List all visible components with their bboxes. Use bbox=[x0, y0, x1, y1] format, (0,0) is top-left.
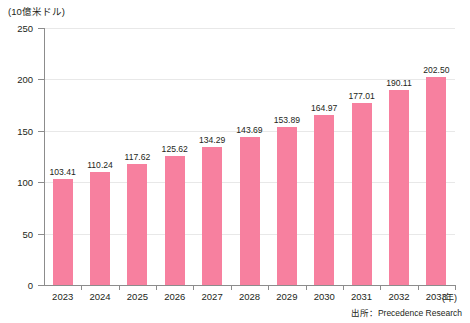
y-axis-tick bbox=[38, 285, 44, 286]
x-axis-tick bbox=[268, 285, 269, 290]
x-axis-tick bbox=[81, 285, 82, 290]
x-axis-tick-label: 2027 bbox=[192, 291, 232, 302]
x-axis-unit-label: (年) bbox=[442, 291, 457, 304]
bar bbox=[352, 103, 372, 285]
bar bbox=[389, 90, 409, 285]
x-axis-tick bbox=[156, 285, 157, 290]
bar bbox=[127, 164, 147, 285]
bar-value-label: 134.29 bbox=[191, 135, 233, 145]
x-axis-tick bbox=[306, 285, 307, 290]
x-axis-line bbox=[44, 285, 456, 286]
gridline bbox=[44, 28, 455, 29]
y-axis-line bbox=[44, 28, 45, 286]
x-axis-tick-label: 2023 bbox=[43, 291, 83, 302]
bar-value-label: 125.62 bbox=[154, 144, 196, 154]
bar bbox=[202, 147, 222, 285]
bar bbox=[53, 179, 73, 285]
x-axis-tick-label: 2024 bbox=[80, 291, 120, 302]
y-axis-tick-label: 250 bbox=[0, 23, 33, 34]
x-axis-tick bbox=[343, 285, 344, 290]
bar-value-label: 103.41 bbox=[42, 167, 84, 177]
bar-value-label: 202.50 bbox=[415, 65, 457, 75]
x-axis-tick bbox=[418, 285, 419, 290]
y-axis-tick-label: 0 bbox=[0, 280, 33, 291]
y-axis-tick bbox=[38, 79, 44, 80]
bar-value-label: 164.97 bbox=[303, 103, 345, 113]
plot-area bbox=[44, 28, 455, 285]
x-axis-tick-label: 2030 bbox=[304, 291, 344, 302]
y-axis-tick bbox=[38, 28, 44, 29]
bar bbox=[426, 77, 446, 285]
x-axis-tick-label: 2025 bbox=[117, 291, 157, 302]
x-axis-tick-label: 2029 bbox=[267, 291, 307, 302]
x-axis-tick bbox=[193, 285, 194, 290]
y-axis-tick-label: 100 bbox=[0, 177, 33, 188]
bar-value-label: 117.62 bbox=[116, 152, 158, 162]
y-axis-tick bbox=[38, 131, 44, 132]
y-axis-tick-label: 150 bbox=[0, 125, 33, 136]
x-axis-tick bbox=[380, 285, 381, 290]
y-axis-unit-label: (10億米ドル) bbox=[8, 4, 65, 18]
bar-chart: (10億米ドル) 050100150200250 202320242025202… bbox=[0, 0, 470, 323]
bar-value-label: 110.24 bbox=[79, 160, 121, 170]
source-note: 出所：Precedence Research bbox=[351, 306, 462, 318]
bar-value-label: 190.11 bbox=[378, 78, 420, 88]
y-axis-tick-label: 50 bbox=[0, 228, 33, 239]
x-axis-tick-label: 2031 bbox=[342, 291, 382, 302]
x-axis-tick-label: 2026 bbox=[155, 291, 195, 302]
x-axis-tick bbox=[455, 285, 456, 290]
y-axis-tick bbox=[38, 182, 44, 183]
x-axis-tick bbox=[119, 285, 120, 290]
bar-value-label: 177.01 bbox=[341, 91, 383, 101]
bar bbox=[277, 127, 297, 285]
x-axis-tick-label: 2032 bbox=[379, 291, 419, 302]
bar bbox=[240, 137, 260, 285]
y-axis-tick bbox=[38, 234, 44, 235]
bar bbox=[90, 172, 110, 285]
bar bbox=[165, 156, 185, 285]
y-axis-tick-label: 200 bbox=[0, 74, 33, 85]
x-axis-tick-label: 2028 bbox=[230, 291, 270, 302]
bar-value-label: 143.69 bbox=[229, 125, 271, 135]
x-axis-tick bbox=[231, 285, 232, 290]
bar bbox=[314, 115, 334, 285]
bar-value-label: 153.89 bbox=[266, 115, 308, 125]
